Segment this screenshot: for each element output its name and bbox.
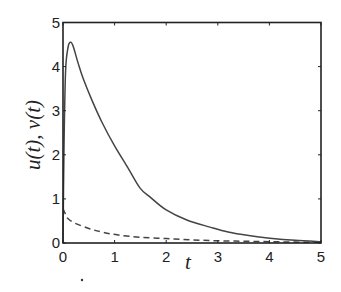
series-line-u — [63, 42, 321, 243]
y-tick-label: 4 — [52, 58, 60, 75]
stray-dot — [81, 279, 83, 281]
x-tick-labels: 012345 — [59, 248, 325, 265]
x-tick-label: 1 — [110, 248, 118, 265]
series-line-v — [63, 209, 321, 243]
x-axis-label: t — [185, 250, 192, 274]
axes-frame — [63, 23, 321, 244]
plot-lines — [63, 42, 321, 243]
x-tick-label: 2 — [162, 248, 170, 265]
y-tick-label: 0 — [52, 234, 60, 251]
axis-ticks — [63, 23, 321, 244]
y-axis-label: u(t), v(t) — [21, 100, 45, 170]
x-tick-label: 4 — [265, 248, 273, 265]
y-tick-label: 2 — [52, 146, 60, 163]
x-tick-label: 0 — [59, 248, 67, 265]
y-tick-label: 3 — [52, 102, 60, 119]
line-chart: 012345 012345 t u(t), v(t) — [0, 0, 341, 292]
x-tick-label: 3 — [214, 248, 222, 265]
y-tick-label: 1 — [52, 190, 60, 207]
y-tick-labels: 012345 — [52, 14, 60, 252]
x-tick-label: 5 — [317, 248, 325, 265]
y-tick-label: 5 — [52, 14, 60, 31]
